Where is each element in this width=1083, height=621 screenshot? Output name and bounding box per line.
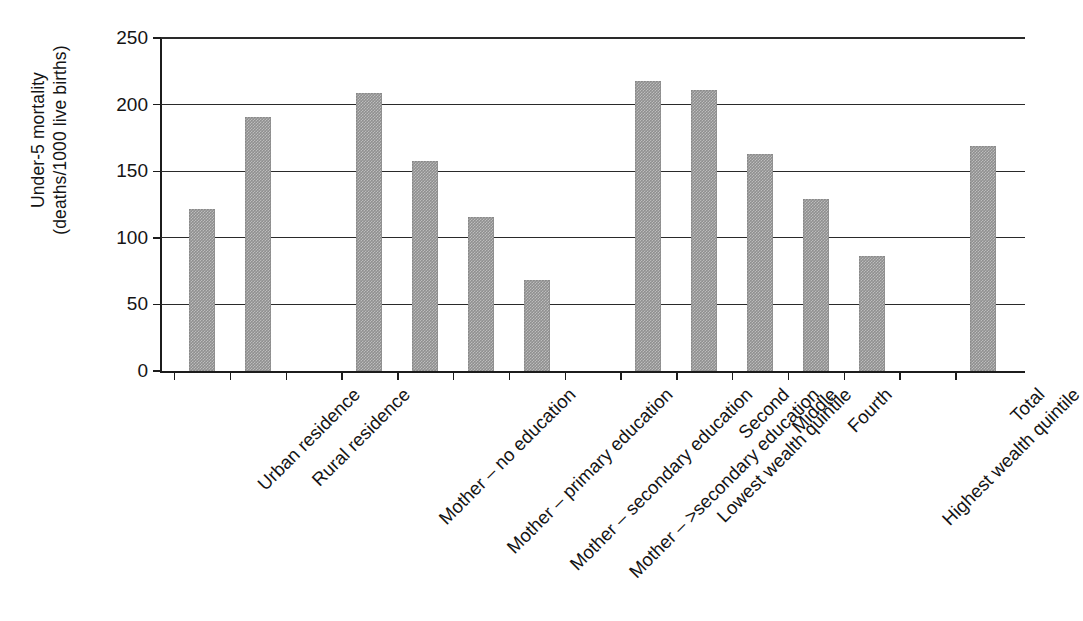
y-tick-mark-250	[153, 37, 161, 38]
x-tick-mark-0	[174, 371, 175, 380]
gridline-150	[160, 171, 1025, 172]
bar[interactable]	[803, 199, 829, 371]
y-tick-label-0: 0	[137, 360, 148, 382]
bar[interactable]	[970, 146, 996, 371]
x-tick-mark-5	[453, 371, 454, 380]
x-axis-line	[160, 371, 1025, 373]
y-axis-title-line2: (deaths/1000 live births)	[50, 45, 70, 234]
bar[interactable]	[189, 209, 215, 372]
x-tick-mark-4	[397, 371, 398, 380]
y-tick-label-150: 150	[116, 160, 148, 182]
bar[interactable]	[245, 117, 271, 371]
x-tick-mark-8	[620, 371, 621, 380]
bar[interactable]	[468, 217, 494, 372]
y-tick-mark-100	[153, 237, 161, 238]
x-tick-mark-7	[565, 371, 566, 380]
x-tick-mark-11	[788, 371, 789, 380]
bar[interactable]	[412, 161, 438, 371]
bar[interactable]	[747, 154, 773, 371]
y-tick-mark-150	[153, 171, 161, 172]
bar[interactable]	[691, 90, 717, 371]
x-tick-mark-2	[286, 371, 287, 380]
x-tick-mark-12	[844, 371, 845, 380]
x-axis-label: Mother – primary education	[504, 385, 676, 557]
y-tick-label-50: 50	[127, 293, 148, 315]
x-tick-mark-3	[341, 371, 342, 380]
bar[interactable]	[635, 81, 661, 371]
gridline-100	[160, 237, 1025, 238]
y-tick-mark-50	[153, 304, 161, 305]
x-tick-mark-10	[732, 371, 733, 380]
y-tick-label-250: 250	[116, 27, 148, 49]
y-axis-line	[160, 38, 162, 371]
gridline-200	[160, 104, 1025, 105]
y-tick-label-200: 200	[116, 94, 148, 116]
x-tick-mark-6	[509, 371, 510, 380]
bar[interactable]	[524, 280, 550, 371]
x-axis-label: Fourth	[844, 385, 895, 436]
y-axis-title: Under-5 mortality(deaths/1000 live birth…	[27, 0, 71, 285]
x-tick-mark-9	[676, 371, 677, 380]
y-axis-title-line1: Under-5 mortality	[28, 72, 48, 208]
x-tick-mark-1	[230, 371, 231, 380]
y-tick-mark-0	[153, 370, 161, 371]
x-tick-mark-14	[955, 371, 956, 380]
gridline-50	[160, 304, 1025, 305]
y-tick-mark-200	[153, 104, 161, 105]
bar[interactable]	[356, 93, 382, 371]
y-tick-label-100: 100	[116, 227, 148, 249]
plot-area: 050100150200250	[160, 38, 1025, 371]
gridline-250	[160, 37, 1025, 38]
bar[interactable]	[859, 256, 885, 371]
x-tick-mark-13	[899, 371, 900, 380]
